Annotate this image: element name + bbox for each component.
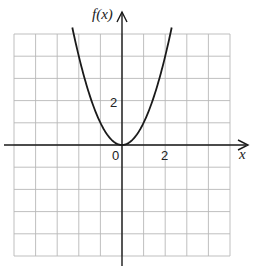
axes	[4, 12, 248, 266]
y-axis-label: f(x)	[92, 6, 113, 23]
origin-label: 0	[112, 148, 119, 163]
function-graph	[0, 0, 255, 273]
x-axis-label: x	[239, 146, 246, 163]
x-tick-label-2: 2	[161, 148, 168, 163]
y-tick-label-2: 2	[110, 95, 117, 110]
